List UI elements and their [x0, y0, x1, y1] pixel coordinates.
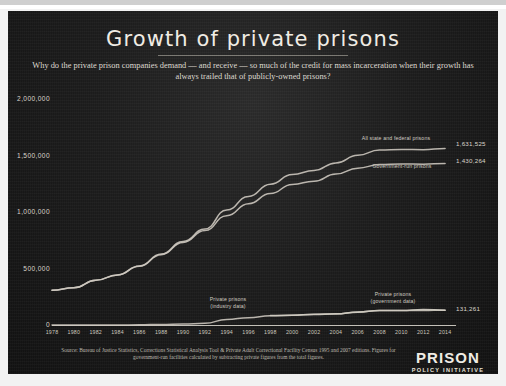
x-axis-line [52, 325, 456, 326]
x-axis-tick-1994: 1994 [218, 329, 236, 335]
annotation-private-prisons-industry-data: Private prisons(industry data) [197, 296, 259, 309]
chart-subtitle: Why do the private prison companies dema… [30, 60, 476, 83]
y-axis-tick-1500000: 1,500,000 [12, 152, 50, 159]
series-line-0 [52, 149, 445, 291]
x-axis-tick-1982: 1982 [87, 329, 105, 335]
series-line-3 [270, 309, 445, 315]
x-axis-tick-2014: 2014 [436, 329, 454, 335]
y-axis-tick-0: 0 [12, 321, 50, 328]
screenshot-frame: Growth of private prisons Why do the pri… [0, 0, 506, 386]
x-axis-tick-1998: 1998 [261, 329, 279, 335]
series-line-2 [52, 310, 445, 325]
prison-policy-initiative-logo: PRISON POLICY INITIATIVE [406, 349, 490, 373]
top-white-strip [0, 5, 506, 9]
annotation-government-run-prisons: Government-run prisons [354, 163, 450, 169]
x-axis-tick-1980: 1980 [65, 329, 83, 335]
page-title: Growth of private prisons [8, 27, 498, 51]
x-axis-tick-1996: 1996 [240, 329, 258, 335]
x-axis-tick-1978: 1978 [43, 329, 61, 335]
x-axis-tick-2012: 2012 [414, 329, 432, 335]
end-value-0: 1,631,525 [456, 140, 486, 147]
x-axis-tick-2008: 2008 [371, 329, 389, 335]
annotation-line: Private prisons [197, 296, 259, 303]
y-axis-tick-1000000: 1,000,000 [12, 208, 50, 215]
y-axis-tick-2000000: 2,000,000 [12, 95, 50, 102]
x-axis-tick-1986: 1986 [130, 329, 148, 335]
chart-poster: Growth of private prisons Why do the pri… [8, 11, 498, 374]
title-underline [158, 55, 348, 56]
source-note: Source: Bureau of Justice Statistics, Co… [56, 347, 401, 362]
y-axis-tick-500000: 500,000 [12, 265, 50, 272]
x-axis-tick-1990: 1990 [174, 329, 192, 335]
x-axis-tick-1992: 1992 [196, 329, 214, 335]
logo-line-2: POLICY INITIATIVE [406, 367, 490, 373]
x-axis-tick-2004: 2004 [327, 329, 345, 335]
annotation-line: (industry data) [197, 303, 259, 310]
annotation-all-state-and-federal-prisons: All state and federal prisons [340, 135, 452, 141]
annotation-line: (government data) [357, 298, 429, 305]
logo-line-1: PRISON [406, 349, 490, 366]
x-axis-tick-1984: 1984 [109, 329, 127, 335]
x-axis-tick-2002: 2002 [305, 329, 323, 335]
x-axis-tick-2000: 2000 [283, 329, 301, 335]
x-axis-tick-1988: 1988 [152, 329, 170, 335]
annotation-line: Private prisons [357, 291, 429, 298]
end-value-3: 131,261 [456, 305, 480, 312]
end-value-1: 1,430,264 [456, 157, 486, 164]
x-axis-tick-2006: 2006 [349, 329, 367, 335]
x-axis-tick-2010: 2010 [392, 329, 410, 335]
annotation-private-prisons-government-data: Private prisons(government data) [357, 291, 429, 304]
annotation-line: Government-run prisons [354, 163, 450, 169]
annotation-line: All state and federal prisons [340, 135, 452, 141]
series-line-1 [52, 163, 445, 290]
